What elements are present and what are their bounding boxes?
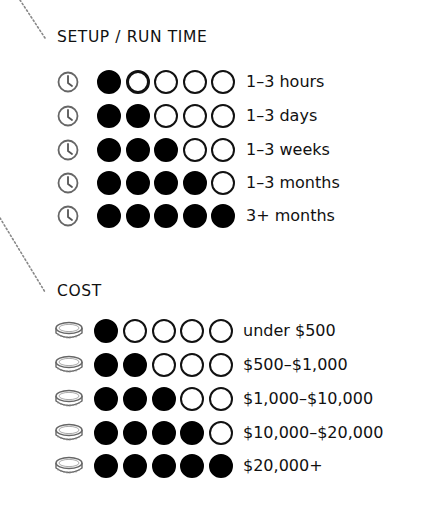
setup-row-label: 1–3 weeks [246, 142, 330, 158]
clock-icon [57, 105, 79, 131]
empty-dot-icon [152, 353, 176, 377]
filled-dot-icon [183, 204, 207, 228]
cost-heading: COST [57, 284, 102, 300]
empty-dot-icon [180, 387, 204, 411]
setup-row: 1–3 days [0, 101, 421, 131]
filled-dot-icon [94, 454, 118, 478]
cost-row: $20,000+ [0, 451, 421, 481]
empty-dot-icon [211, 70, 235, 94]
coin-icon [54, 423, 84, 447]
empty-dot-icon [209, 387, 233, 411]
filled-dot-icon [123, 454, 147, 478]
setup-row-label: 1–3 hours [246, 74, 324, 90]
empty-dot-icon [154, 104, 178, 128]
empty-dot-icon [183, 70, 207, 94]
filled-dot-icon [94, 387, 118, 411]
filled-dot-icon [123, 387, 147, 411]
filled-dot-icon [126, 171, 150, 195]
filled-dot-icon [126, 138, 150, 162]
cost-row-label: under $500 [243, 323, 336, 339]
coin-icon [54, 456, 84, 480]
setup-row: 1–3 weeks [0, 135, 421, 165]
empty-dot-icon [183, 138, 207, 162]
cost-row: under $500 [0, 316, 421, 346]
cost-row-label: $500–$1,000 [243, 357, 348, 373]
cost-row-label: $1,000–$10,000 [243, 391, 373, 407]
filled-dot-icon [180, 421, 204, 445]
filled-dot-icon [180, 454, 204, 478]
filled-dot-icon [154, 204, 178, 228]
cost-row-label: $20,000+ [243, 458, 323, 474]
filled-dot-icon [211, 204, 235, 228]
filled-dot-icon [183, 171, 207, 195]
filled-dot-icon [209, 454, 233, 478]
filled-dot-icon [152, 454, 176, 478]
setup-row: 1–3 months [0, 168, 421, 198]
empty-dot-icon [209, 353, 233, 377]
filled-dot-icon [126, 204, 150, 228]
filled-dot-icon [97, 204, 121, 228]
filled-dot-icon [154, 171, 178, 195]
empty-dot-icon [209, 319, 233, 343]
empty-dot-icon [126, 70, 150, 94]
filled-dot-icon [126, 104, 150, 128]
filled-dot-icon [97, 138, 121, 162]
filled-dot-icon [152, 421, 176, 445]
coin-icon [54, 321, 84, 345]
empty-dot-icon [209, 421, 233, 445]
coin-icon [54, 355, 84, 379]
setup-row-label: 1–3 months [246, 175, 340, 191]
filled-dot-icon [152, 387, 176, 411]
setup-run-time-heading: SETUP / RUN TIME [57, 30, 207, 46]
clock-icon [57, 139, 79, 165]
empty-dot-icon [211, 171, 235, 195]
setup-row-label: 3+ months [246, 208, 335, 224]
filled-dot-icon [97, 70, 121, 94]
filled-dot-icon [97, 171, 121, 195]
cost-row-label: $10,000–$20,000 [243, 425, 383, 441]
filled-dot-icon [154, 138, 178, 162]
empty-dot-icon [183, 104, 207, 128]
empty-dot-icon [152, 319, 176, 343]
setup-row-label: 1–3 days [246, 108, 317, 124]
clock-icon [57, 172, 79, 198]
filled-dot-icon [94, 353, 118, 377]
clock-icon [57, 205, 79, 231]
empty-dot-icon [211, 104, 235, 128]
coin-icon [54, 389, 84, 413]
empty-dot-icon [123, 319, 147, 343]
filled-dot-icon [123, 421, 147, 445]
cost-row: $10,000–$20,000 [0, 418, 421, 448]
empty-dot-icon [154, 70, 178, 94]
empty-dot-icon [180, 353, 204, 377]
setup-row: 1–3 hours [0, 67, 421, 97]
clock-icon [57, 71, 79, 97]
empty-dot-icon [211, 138, 235, 162]
filled-dot-icon [97, 104, 121, 128]
empty-dot-icon [180, 319, 204, 343]
cost-row: $1,000–$10,000 [0, 384, 421, 414]
setup-row: 3+ months [0, 201, 421, 231]
cost-row: $500–$1,000 [0, 350, 421, 380]
filled-dot-icon [123, 353, 147, 377]
filled-dot-icon [94, 421, 118, 445]
filled-dot-icon [94, 319, 118, 343]
